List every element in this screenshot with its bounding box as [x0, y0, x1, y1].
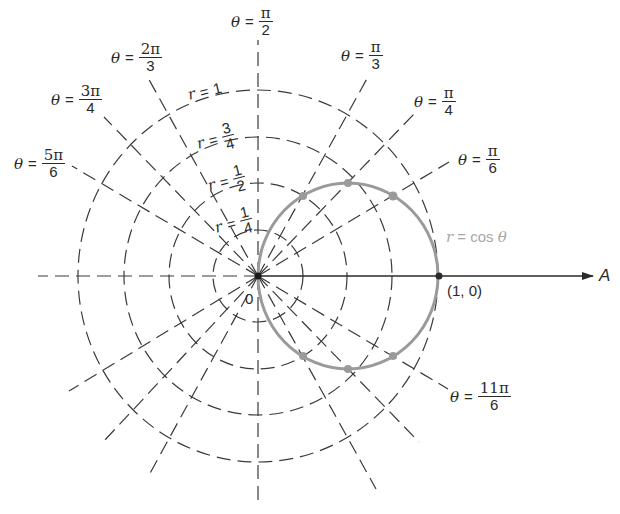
equals-sign: =	[457, 228, 466, 245]
point-1-0	[436, 273, 443, 280]
numerator: π	[369, 40, 383, 56]
theta-symbol: θ	[458, 151, 467, 169]
ray-5pi-over-3	[258, 276, 376, 489]
label-theta-2pi-over-3: θ = 2π3	[111, 42, 162, 73]
denominator: 2	[235, 177, 247, 194]
label-theta-11pi-over-6: θ = 11π6	[450, 381, 511, 412]
fraction: π6	[486, 144, 500, 175]
cos-function: cos	[470, 228, 493, 245]
equals-sign: =	[125, 49, 134, 66]
fraction: π2	[259, 6, 273, 37]
fraction: π3	[369, 40, 383, 71]
equals-sign: =	[472, 151, 481, 168]
label-polar-axis: A	[599, 266, 610, 286]
point-7pi-over-4	[344, 365, 352, 373]
label-point-1-0: (1, 0)	[447, 282, 482, 299]
point-11pi-over-6	[389, 352, 397, 360]
label-curve-r-cos-theta: r = cos θ	[446, 228, 507, 246]
label-theta-pi-over-3: θ = π3	[341, 40, 383, 71]
r-symbol: r	[446, 228, 453, 246]
numerator: 2π	[139, 42, 162, 58]
denominator: 6	[490, 397, 498, 412]
equals-sign: =	[355, 47, 364, 64]
denominator: 4	[242, 219, 254, 236]
point-pi-over-3	[299, 192, 307, 200]
theta-symbol: θ	[341, 47, 350, 65]
equals-sign: =	[198, 82, 211, 101]
equals-sign: =	[225, 214, 238, 233]
equals-sign: =	[428, 93, 437, 110]
label-theta-pi-over-6: θ = π6	[458, 144, 500, 175]
label-theta-pi-over-2: θ = π2	[231, 6, 273, 37]
denominator: 4	[445, 102, 453, 117]
polar-diagram	[0, 0, 620, 514]
point-5pi-over-3	[299, 352, 307, 360]
equals-sign: =	[65, 91, 74, 108]
point-pi-over-4	[344, 179, 352, 187]
theta-symbol: θ	[498, 228, 507, 246]
fraction: 11π6	[478, 381, 511, 412]
theta-symbol: θ	[14, 155, 23, 173]
denominator: 6	[49, 164, 57, 179]
theta-symbol: θ	[450, 388, 459, 406]
denominator: 6	[489, 160, 497, 175]
numerator: 11π	[478, 381, 511, 397]
fraction: 5π6	[42, 148, 65, 179]
label-theta-3pi-over-4: θ = 3π4	[51, 84, 102, 115]
denominator: 3	[146, 58, 154, 73]
denominator: 2	[262, 22, 270, 37]
point-pi-over-6	[389, 192, 398, 201]
numerator: π	[259, 6, 273, 22]
theta-symbol: θ	[414, 93, 423, 111]
theta-symbol: θ	[111, 49, 120, 67]
numerator: π	[486, 144, 500, 160]
numerator: 3π	[79, 84, 102, 100]
equals-sign: =	[464, 388, 473, 405]
denominator: 4	[224, 135, 236, 152]
fraction: 2π3	[139, 42, 162, 73]
fraction: 3π4	[79, 84, 102, 115]
ray-pi-over-3	[258, 75, 369, 276]
numerator: π	[442, 86, 456, 102]
fraction: π4	[442, 86, 456, 117]
denominator: 3	[372, 56, 380, 71]
equals-sign: =	[218, 172, 231, 191]
equals-sign: =	[207, 130, 220, 149]
theta-symbol: θ	[51, 91, 60, 109]
origin-point	[255, 273, 262, 280]
equals-sign: =	[245, 13, 254, 30]
denominator: 4	[86, 100, 94, 115]
theta-symbol: θ	[231, 13, 240, 31]
equals-sign: =	[28, 155, 37, 172]
label-theta-5pi-over-6: θ = 5π6	[14, 148, 65, 179]
numerator: 5π	[42, 148, 65, 164]
label-theta-pi-over-4: θ = π4	[414, 86, 456, 117]
label-origin: 0	[245, 290, 253, 307]
